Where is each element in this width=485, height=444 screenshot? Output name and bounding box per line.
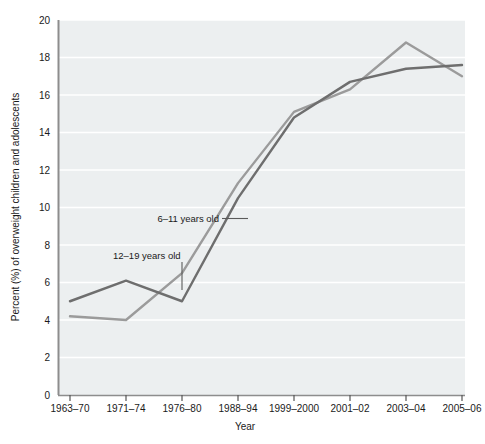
x-tick-label: 1963–70	[51, 403, 90, 414]
series-annotation-12-19: 12–19 years old	[113, 250, 181, 261]
x-tick-label: 2003–04	[387, 403, 426, 414]
y-axis-tick-labels: 02468101214161820	[39, 15, 51, 401]
y-tick-label: 4	[44, 315, 50, 326]
line-chart: 02468101214161820 1963–701971–741976–801…	[0, 0, 485, 444]
x-tick-label: 1999–2000	[269, 403, 319, 414]
x-tick-label: 1976–80	[163, 403, 202, 414]
y-tick-label: 18	[39, 52, 51, 63]
y-tick-label: 16	[39, 90, 51, 101]
y-axis-title: Percent (%) of overweight children and a…	[10, 93, 21, 321]
y-tick-label: 8	[44, 240, 50, 251]
y-tick-label: 2	[44, 352, 50, 363]
x-tick-label: 1971–74	[107, 403, 146, 414]
y-tick-label: 0	[44, 390, 50, 401]
series-annotation-6-11: 6–11 years old	[157, 213, 219, 224]
y-tick-label: 20	[39, 15, 51, 26]
x-axis-title: Year	[235, 421, 256, 432]
x-tick-label: 2001–02	[331, 403, 370, 414]
y-tick-label: 6	[44, 277, 50, 288]
x-tick-label: 2005–06	[443, 403, 482, 414]
y-tick-label: 14	[39, 127, 51, 138]
y-tick-label: 12	[39, 165, 51, 176]
y-tick-label: 10	[39, 202, 51, 213]
x-axis-tick-labels: 1963–701971–741976–801988–941999–2000200…	[51, 403, 482, 414]
x-tick-label: 1988–94	[219, 403, 258, 414]
chart-figure: 02468101214161820 1963–701971–741976–801…	[0, 0, 485, 444]
